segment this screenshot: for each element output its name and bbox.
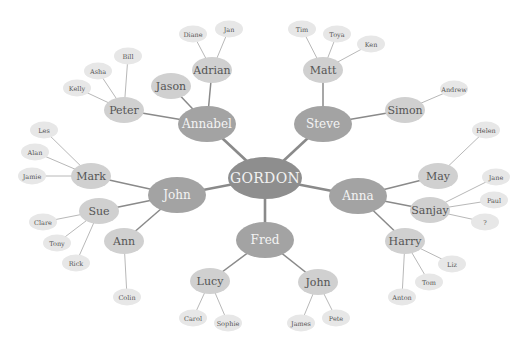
node-label: John [163,188,191,202]
node-toya[interactable]: Toya [323,26,351,43]
node-label: GORDON [230,170,300,186]
node-label: Anna [342,189,373,203]
node-label: Alan [28,148,43,156]
node-anton[interactable]: Anton [388,289,416,306]
node-tim[interactable]: Tim [288,21,316,38]
node-tom[interactable]: Tom [415,274,443,291]
node-label: Clare [34,218,52,226]
node-adrian[interactable]: Adrian [192,57,232,83]
node-peter[interactable]: Peter [104,97,144,123]
node-sophie[interactable]: Sophie [214,315,242,332]
node-label: Steve [306,117,340,131]
node-label: Peter [109,104,139,117]
node-may[interactable]: May [418,163,458,189]
node-label: May [426,170,450,183]
node-steve[interactable]: Steve [294,106,352,142]
node-label: Anton [392,293,412,301]
node-label: Diane [183,30,202,38]
node-label: Ann [113,235,135,248]
node-diane[interactable]: Diane [179,26,207,43]
node-label: Jason [156,80,186,93]
node-label: Lucy [197,275,224,288]
node-label: Les [38,126,50,134]
node-label: Kelly [69,84,85,92]
node-label: Colin [118,293,135,301]
node-label: Tom [422,278,436,286]
node-andrew[interactable]: Andrew [440,81,468,98]
node-kelly[interactable]: Kelly [63,80,91,97]
node-label: Sophie [217,319,240,327]
node-sue[interactable]: Sue [79,198,119,224]
node-label: Pete [329,314,343,322]
node-label: Rick [69,259,84,267]
node-label: John [305,276,330,289]
node-label: Carol [184,314,202,322]
node-label: Matt [310,64,337,77]
node-john-fred[interactable]: John [298,269,338,295]
node-label: ? [483,218,487,226]
node-label: Simon [387,104,422,117]
node-ann[interactable]: Ann [104,228,144,254]
node-label: Paul [487,196,501,204]
node-annabel[interactable]: Annabel [178,106,236,142]
mind-map-canvas: GORDON Annabel Steve John Anna Fred Adri… [0,0,530,348]
node-sanjay[interactable]: Sanjay [410,197,450,223]
node-label: Harry [389,235,422,248]
node-label: Adrian [193,64,230,77]
node-label: Toya [329,30,344,38]
node-harry[interactable]: Harry [385,228,425,254]
node-helen[interactable]: Helen [472,122,500,139]
node-fred[interactable]: Fred [236,222,294,258]
node-jan[interactable]: Jan [215,21,243,38]
node-james[interactable]: James [287,315,315,332]
node-label: Jan [224,25,235,33]
node-bill[interactable]: Bill [114,48,142,65]
node-label: Jamie [23,172,42,180]
node-label: Bill [122,52,133,60]
node-label: Sue [88,205,109,218]
node-asha[interactable]: Asha [84,63,112,80]
node-simon[interactable]: Simon [385,97,425,123]
node-label: Asha [90,67,106,75]
node-ken[interactable]: Ken [357,36,385,53]
node-label: Jane [489,173,504,181]
node-label: Annabel [182,117,232,131]
node-jason[interactable]: Jason [151,73,191,99]
node-label: Mark [76,170,106,183]
node-label: Tony [49,239,65,247]
node-jane[interactable]: Jane [482,169,510,186]
node-colin[interactable]: Colin [113,289,141,306]
node-clare[interactable]: Clare [29,214,57,231]
node-label: Helen [476,126,496,134]
node-label: Sanjay [411,204,448,217]
node-carol[interactable]: Carol [179,310,207,327]
node-john[interactable]: John [148,177,206,213]
node-label: James [291,319,311,327]
node-lucy[interactable]: Lucy [190,268,230,294]
node-paul[interactable]: Paul [480,192,508,209]
node-anna[interactable]: Anna [329,178,387,214]
node-pete[interactable]: Pete [322,310,350,327]
node-mark[interactable]: Mark [71,163,111,189]
node-label: Liz [447,260,457,268]
node-matt[interactable]: Matt [303,57,343,83]
node-liz[interactable]: Liz [438,256,466,273]
node-label: Ken [365,40,378,48]
node-rick[interactable]: Rick [62,255,90,272]
node-alan[interactable]: Alan [21,144,49,161]
node-label: Fred [251,233,280,247]
node-label: Tim [296,25,309,33]
node-label: Andrew [441,85,467,93]
node-les[interactable]: Les [30,122,58,139]
node-gordon[interactable]: GORDON [228,157,302,199]
node-unknown[interactable]: ? [471,214,499,231]
node-tony[interactable]: Tony [43,235,71,252]
node-jamie[interactable]: Jamie [18,168,46,185]
